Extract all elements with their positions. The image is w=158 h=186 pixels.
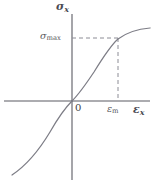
epsilon-m-subscript: m [112, 107, 118, 115]
x-axis-label: εx [133, 104, 144, 117]
epsilon-m-label: εm [107, 104, 119, 115]
y-axis-label-subscript: x [64, 5, 69, 14]
sigma-max-label: σmax [40, 31, 61, 42]
y-axis-label-symbol: σ [56, 0, 64, 13]
x-axis-label-subscript: x [140, 108, 145, 117]
plot-canvas [0, 0, 158, 186]
sigma-max-subscript: max [47, 34, 61, 42]
y-axis-label: σx [56, 1, 69, 14]
stress-strain-figure: σx εx σmax εm 0 [0, 0, 158, 186]
origin-label: 0 [75, 103, 81, 113]
x-axis-label-symbol: ε [133, 103, 140, 116]
